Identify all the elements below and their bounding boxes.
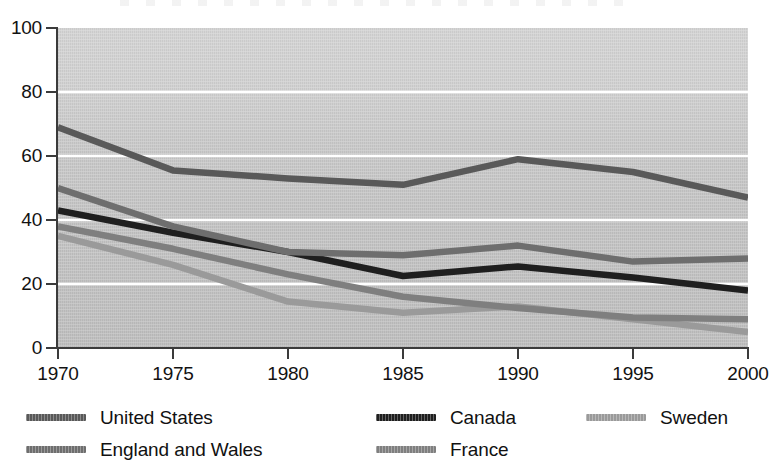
legend-item-sweden[interactable]: Sweden [586, 404, 728, 430]
y-tick-40 [46, 219, 57, 221]
legend-item-canada[interactable]: Canada [376, 404, 516, 430]
x-tick-label-1980: 1980 [253, 363, 323, 384]
legend-item-england-and-wales[interactable]: England and Wales [26, 436, 262, 462]
y-tick-label-40: 40 [0, 210, 42, 229]
legend-label-sweden: Sweden [660, 407, 728, 428]
legend-swatch-sweden [586, 414, 646, 421]
x-tick-1975 [172, 349, 174, 359]
x-tick-label-1995: 1995 [598, 363, 668, 384]
plot-canvas [58, 28, 748, 348]
x-tick-1980 [287, 349, 289, 359]
x-tick-label-1975: 1975 [138, 363, 208, 384]
x-tick-label-1985: 1985 [368, 363, 438, 384]
legend-swatch-united-states [26, 414, 86, 421]
legend-swatch-france [376, 446, 436, 453]
x-tick-1995 [632, 349, 634, 359]
legend-swatch-england-and-wales [26, 446, 86, 453]
y-tick-100 [46, 27, 57, 29]
x-tick-1970 [57, 349, 59, 359]
y-axis-line [56, 27, 58, 349]
y-tick-label-80: 80 [0, 82, 42, 101]
scan-artifact [120, 0, 640, 6]
y-tick-60 [46, 155, 57, 157]
legend-swatch-canada [376, 414, 436, 421]
series-line-united-states [58, 127, 748, 197]
y-tick-label-0: 0 [0, 338, 42, 357]
x-tick-1990 [517, 349, 519, 359]
legend-label-england-and-wales: England and Wales [100, 439, 262, 460]
chart-legend: United States Canada Sweden England and … [26, 404, 756, 466]
legend-item-united-states[interactable]: United States [26, 404, 213, 430]
x-tick-label-1990: 1990 [483, 363, 553, 384]
y-tick-label-100: 100 [0, 18, 42, 37]
y-tick-label-60: 60 [0, 146, 42, 165]
legend-label-france: France [450, 439, 509, 460]
legend-label-united-states: United States [100, 407, 213, 428]
legend-label-canada: Canada [450, 407, 516, 428]
y-tick-0 [46, 347, 57, 349]
legend-item-france[interactable]: France [376, 436, 509, 462]
x-tick-label-1970: 1970 [23, 363, 93, 384]
y-tick-20 [46, 283, 57, 285]
plot-area [58, 28, 748, 348]
y-tick-label-20: 20 [0, 274, 42, 293]
x-tick-label-2000: 2000 [713, 363, 773, 384]
x-tick-2000 [747, 349, 749, 359]
y-tick-80 [46, 91, 57, 93]
series-line-england-and-wales [58, 188, 748, 262]
x-tick-1985 [402, 349, 404, 359]
